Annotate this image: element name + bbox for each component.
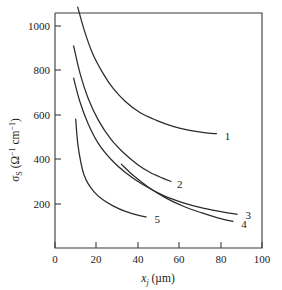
curve-5 <box>76 119 146 217</box>
curve-label-4: 4 <box>241 218 247 230</box>
curve-labels-group: 1 2 3 4 5 <box>154 130 251 230</box>
curve-3 <box>74 78 238 214</box>
y-tick-label-800: 800 <box>34 64 51 76</box>
figure-container: 1000 800 600 400 200 0 20 40 60 80 100 x… <box>0 0 282 290</box>
y-axis-ticks <box>55 26 61 204</box>
x-tick-label-0: 0 <box>52 253 58 265</box>
x-tick-label-20: 20 <box>91 253 103 265</box>
curve-1 <box>78 7 217 134</box>
curves-group <box>74 7 238 221</box>
y-tick-label-400: 400 <box>34 153 51 165</box>
x-axis-label: xj (µm) <box>140 272 175 287</box>
curve-label-1: 1 <box>225 130 231 142</box>
x-tick-label-100: 100 <box>254 253 271 265</box>
y-axis-label: σS (Ω−1 cm−1) <box>8 118 24 182</box>
x-axis-ticks <box>55 242 262 248</box>
x-tick-label-80: 80 <box>216 253 228 265</box>
y-tick-label-200: 200 <box>34 198 51 210</box>
curve-label-2: 2 <box>177 178 183 190</box>
y-tick-label-600: 600 <box>34 109 51 121</box>
curve-2 <box>74 46 171 181</box>
curve-label-5: 5 <box>154 213 160 225</box>
x-tick-label-40: 40 <box>133 253 145 265</box>
curve-4 <box>121 164 233 221</box>
chart-svg: 1000 800 600 400 200 0 20 40 60 80 100 x… <box>0 0 282 290</box>
y-tick-label-1000: 1000 <box>28 20 51 32</box>
x-tick-label-60: 60 <box>174 253 186 265</box>
